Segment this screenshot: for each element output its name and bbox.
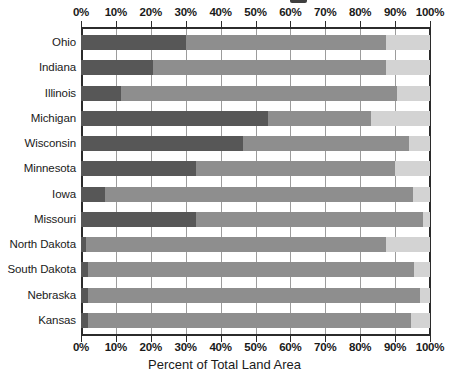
bar-segment[interactable] [243, 136, 409, 151]
bar-row[interactable] [81, 161, 430, 176]
bar-segment[interactable] [413, 187, 430, 202]
bar-segment[interactable] [121, 86, 397, 101]
y-axis-label-north-dakota: North Dakota [0, 238, 76, 250]
bar-segment[interactable] [386, 35, 430, 50]
bar-segment[interactable] [196, 212, 423, 227]
bar-row[interactable] [81, 288, 430, 303]
bar-segment[interactable] [81, 111, 268, 126]
bar-segment[interactable] [81, 313, 88, 328]
bar-segment[interactable] [81, 161, 196, 176]
bar-row[interactable] [81, 237, 430, 252]
bar-segment[interactable] [81, 60, 153, 75]
bar-segment[interactable] [411, 313, 430, 328]
bar-row[interactable] [81, 212, 430, 227]
plot-area [81, 30, 430, 333]
bar-segment[interactable] [81, 86, 121, 101]
bar-row[interactable] [81, 187, 430, 202]
bar-segment[interactable] [386, 237, 430, 252]
bar-segment[interactable] [105, 187, 412, 202]
bar-segment[interactable] [81, 187, 105, 202]
bar-segment[interactable] [81, 212, 196, 227]
bar-segment[interactable] [88, 288, 420, 303]
y-axis-label-south-dakota: South Dakota [0, 263, 76, 275]
x-tick-top-100 [430, 21, 431, 28]
bar-segment[interactable] [395, 161, 430, 176]
bar-segment[interactable] [268, 111, 371, 126]
y-axis-label-iowa: Iowa [0, 188, 76, 200]
bar-segment[interactable] [81, 288, 88, 303]
x-tick-top-50 [256, 21, 257, 28]
bar-row[interactable] [81, 111, 430, 126]
y-axis-category-labels: OhioIndianaIllinoisMichiganWisconsinMinn… [0, 30, 76, 333]
bar-row[interactable] [81, 86, 430, 101]
y-axis-label-missouri: Missouri [0, 213, 76, 225]
bar-segment[interactable] [397, 86, 430, 101]
legend-swatch-cropped-icon [290, 0, 307, 3]
bar-segment[interactable] [386, 60, 430, 75]
x-tick-top-60 [290, 21, 291, 28]
y-axis-label-minnesota: Minnesota [0, 162, 76, 174]
bar-segment[interactable] [81, 262, 88, 277]
stacked-bar-chart: 0%10%20%30%40%50%60%70%80%90%100% 0%10%2… [0, 0, 449, 378]
x-tick-label-bottom-100: 100% [410, 341, 449, 353]
bar-row[interactable] [81, 313, 430, 328]
x-tick-top-30 [186, 21, 187, 28]
x-tick-label-top-100: 100% [410, 6, 449, 18]
bar-row[interactable] [81, 60, 430, 75]
bar-segment[interactable] [153, 60, 387, 75]
bar-segment[interactable] [371, 111, 430, 126]
x-tick-top-90 [395, 21, 396, 28]
bar-segment[interactable] [409, 136, 430, 151]
x-tick-top-0 [81, 21, 82, 28]
bar-segment[interactable] [420, 288, 430, 303]
bar-segment[interactable] [81, 35, 186, 50]
bar-segment[interactable] [423, 212, 430, 227]
bar-segment[interactable] [88, 262, 414, 277]
bar-row[interactable] [81, 136, 430, 151]
bar-segment[interactable] [86, 237, 386, 252]
x-tick-top-40 [221, 21, 222, 28]
bar-segment[interactable] [88, 313, 411, 328]
bar-segment[interactable] [414, 262, 430, 277]
y-axis-label-illinois: Illinois [0, 87, 76, 99]
x-tick-top-10 [116, 21, 117, 28]
bar-row[interactable] [81, 262, 430, 277]
x-tick-top-80 [360, 21, 361, 28]
x-tick-top-20 [151, 21, 152, 28]
y-axis-label-indiana: Indiana [0, 61, 76, 73]
x-tick-top-70 [325, 21, 326, 28]
x-axis-title: Percent of Total Land Area [0, 357, 449, 372]
y-axis-label-nebraska: Nebraska [0, 289, 76, 301]
y-axis-label-michigan: Michigan [0, 112, 76, 124]
bar-segment[interactable] [196, 161, 395, 176]
y-axis-label-kansas: Kansas [0, 314, 76, 326]
bar-segment[interactable] [81, 136, 243, 151]
bar-row[interactable] [81, 35, 430, 50]
y-axis-label-ohio: Ohio [0, 36, 76, 48]
bar-segment[interactable] [186, 35, 387, 50]
y-axis-label-wisconsin: Wisconsin [0, 137, 76, 149]
